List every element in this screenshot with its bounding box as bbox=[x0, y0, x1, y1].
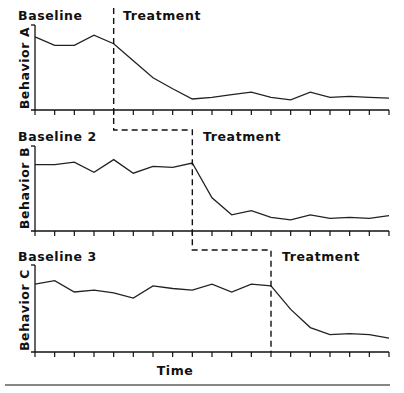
y-axis-label-b: Behavior B bbox=[17, 147, 32, 229]
treatment-label-c: Treatment bbox=[282, 249, 360, 264]
baseline-label-b: Baseline 2 bbox=[18, 129, 97, 144]
panel-behavior-c: Baseline 3 Treatment Behavior C bbox=[17, 249, 389, 357]
y-axis-label-a: Behavior A bbox=[17, 27, 32, 110]
data-line-c bbox=[35, 281, 389, 338]
data-line-b bbox=[35, 160, 389, 220]
data-line-a bbox=[35, 35, 389, 100]
panel-behavior-b: Baseline 2 Treatment Behavior B bbox=[17, 129, 389, 236]
baseline-label-c: Baseline 3 bbox=[18, 249, 97, 264]
axes-c bbox=[31, 265, 389, 357]
baseline-label-a: Baseline bbox=[18, 8, 83, 23]
phase-change-line bbox=[114, 8, 271, 352]
treatment-label-b: Treatment bbox=[203, 129, 281, 144]
treatment-label-a: Treatment bbox=[123, 8, 201, 23]
x-axis-label: Time bbox=[157, 363, 194, 378]
multiple-baseline-chart: Baseline Treatment Behavior A Baseline 2… bbox=[0, 0, 404, 393]
axes-a bbox=[31, 25, 389, 115]
panel-behavior-a: Baseline Treatment Behavior A bbox=[17, 8, 389, 115]
axes-b bbox=[31, 146, 389, 236]
y-axis-label-c: Behavior C bbox=[17, 269, 32, 351]
